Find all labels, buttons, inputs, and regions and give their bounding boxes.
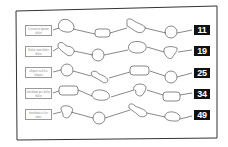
label-box-5: tincidunt et leo nunc [25, 109, 52, 120]
number-badge-5: 49 [194, 110, 210, 120]
chain-row-1 [53, 19, 192, 38]
label-box-2: Dolor sunt dolor dolor [25, 46, 52, 57]
number-badge-2: 19 [194, 46, 210, 56]
number-badge-4: 34 [194, 89, 210, 99]
chain-row-2 [53, 41, 192, 61]
chain-row-3 [53, 64, 192, 83]
label-box-1: Lorem ut ipsum dolor [25, 25, 52, 36]
chain-row-5 [53, 104, 192, 124]
number-badge-3: 25 [194, 68, 210, 78]
label-box-3: aliquet sed leo aliquet [25, 67, 52, 78]
number-badge-1: 11 [194, 25, 210, 35]
chain-row-4 [53, 84, 192, 101]
label-box-4: tincidunt per dolor dolor [25, 88, 52, 99]
